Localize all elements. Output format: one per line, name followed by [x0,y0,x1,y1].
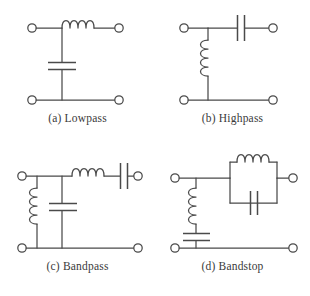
terminal-output-top-icon [134,172,142,180]
bandstop-schematic [155,148,310,263]
terminal-input-top-icon [180,24,188,32]
inductor-L2-coil [237,155,269,163]
terminal-output-bottom-icon [289,244,297,252]
terminal-output-bottom-icon [115,96,123,104]
panel-bandpass: (c) Bandpass [0,148,155,296]
inductor-L1-coil [201,40,209,76]
caption-lowpass: (a) Lowpass [0,112,155,124]
lowpass-schematic [0,0,155,115]
panel-highpass: (b) Highpass [155,0,310,148]
terminal-output-top-icon [289,174,297,182]
caption-bandpass: (c) Bandpass [0,260,155,272]
inductor-L1-coil [30,188,38,224]
terminal-output-bottom-icon [269,96,277,104]
terminal-input-bottom-icon [28,96,36,104]
terminal-output-top-icon [115,24,123,32]
terminal-input-bottom-icon [171,244,179,252]
bandpass-schematic [0,148,155,263]
terminal-input-bottom-icon [18,244,26,252]
terminal-output-top-icon [269,24,277,32]
inductor-L1-coil [189,188,197,224]
terminal-output-bottom-icon [134,244,142,252]
terminal-input-bottom-icon [180,96,188,104]
terminal-input-top-icon [28,24,36,32]
caption-highpass: (b) Highpass [155,112,310,124]
panel-lowpass: (a) Lowpass [0,0,155,148]
inductor-L1-coil [62,21,94,29]
terminal-input-top-icon [18,172,26,180]
panel-bandstop: (d) Bandstop [155,148,310,296]
highpass-schematic [155,0,310,115]
terminal-input-top-icon [171,174,179,182]
inductor-L2-coil [72,169,104,177]
caption-bandstop: (d) Bandstop [155,260,310,272]
filter-circuits-figure: (a) Lowpass (b) Highpass [0,0,310,296]
